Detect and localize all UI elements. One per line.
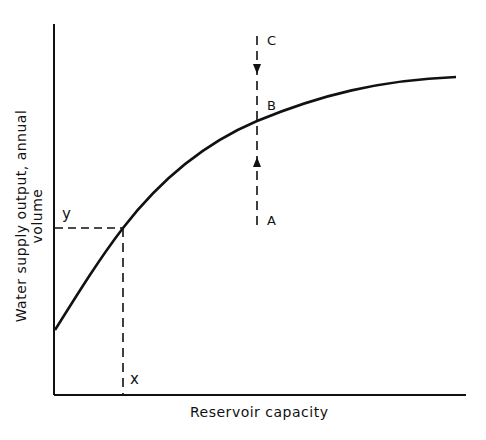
label-y-marker: y xyxy=(62,207,71,222)
arrow-up-icon xyxy=(253,157,261,167)
arrow-down-icon xyxy=(253,64,261,74)
label-point-b: B xyxy=(267,99,276,112)
yield-curve xyxy=(55,77,456,330)
label-x-marker: x xyxy=(130,372,139,387)
x-axis-label: Reservoir capacity xyxy=(190,404,328,420)
y-axis-label: Water supply output, annual volume xyxy=(13,91,45,341)
label-point-c: C xyxy=(267,34,276,47)
diagram-canvas xyxy=(0,0,486,440)
label-point-a: A xyxy=(267,214,276,227)
